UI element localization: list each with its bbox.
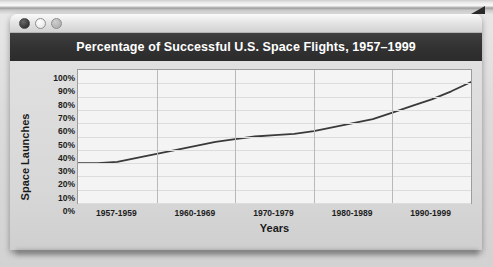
gridline-horizontal (78, 163, 471, 164)
x-axis-tick-label: 1960-1969 (175, 208, 216, 218)
gridline-vertical (157, 70, 158, 203)
x-axis-tick-label: 1990-1999 (410, 208, 451, 218)
y-axis-tick-label: 40% (58, 153, 75, 163)
y-axis-tick-label: 70% (58, 113, 75, 123)
gridline-horizontal (78, 150, 471, 151)
y-axis-tick-label: 90% (58, 86, 75, 96)
close-button[interactable] (19, 18, 30, 29)
y-axis-tick-label: 20% (58, 179, 75, 189)
x-axis-title: Years (77, 222, 472, 234)
plot-region (77, 69, 472, 204)
x-axis-tick-label: 1957-1959 (96, 208, 137, 218)
y-axis-tick-label: 60% (58, 126, 75, 136)
y-axis-ticks: 100%90%80%70%60%50%40%30%20%10%0% (34, 69, 75, 204)
y-axis-tick-label: 100% (53, 73, 75, 83)
gridline-vertical (392, 70, 393, 203)
screenshot-root: Percentage of Successful U.S. Space Flig… (0, 0, 493, 267)
gridline-horizontal (78, 176, 471, 177)
gridline-horizontal (78, 83, 471, 84)
window-controls (19, 18, 62, 29)
y-axis-tick-label: 30% (58, 166, 75, 176)
window-drop-shadow (16, 250, 478, 258)
maximize-button[interactable] (51, 18, 62, 29)
window-titlebar (10, 14, 482, 33)
x-axis-tick-label: 1970-1979 (253, 208, 294, 218)
gridline-horizontal (78, 97, 471, 98)
chart-title: Percentage of Successful U.S. Space Flig… (76, 40, 416, 54)
decorative-top-strip (0, 0, 493, 14)
gridline-vertical (235, 70, 236, 203)
gridline-horizontal (78, 203, 471, 204)
y-axis-tick-label: 10% (58, 193, 75, 203)
application-window: Percentage of Successful U.S. Space Flig… (10, 14, 482, 250)
x-axis-ticks: 1957-19591960-19691970-19791980-19891990… (77, 208, 472, 222)
minimize-button[interactable] (35, 18, 46, 29)
chart-title-band: Percentage of Successful U.S. Space Flig… (10, 33, 482, 61)
x-axis-tick-label: 1980-1989 (332, 208, 373, 218)
gridline-horizontal (78, 123, 471, 124)
gridline-horizontal (78, 190, 471, 191)
y-axis-title: Space Launches (16, 97, 34, 217)
gridline-horizontal (78, 137, 471, 138)
gridline-horizontal (78, 110, 471, 111)
gridline-vertical (314, 70, 315, 203)
y-axis-tick-label: 0% (63, 206, 75, 216)
y-axis-tick-label: 50% (58, 140, 75, 150)
corner-notch-icon (471, 6, 485, 14)
y-axis-title-text: Space Launches (19, 114, 31, 201)
y-axis-tick-label: 80% (58, 100, 75, 110)
chart-area: Space Launches 100%90%80%70%60%50%40%30%… (10, 61, 482, 250)
